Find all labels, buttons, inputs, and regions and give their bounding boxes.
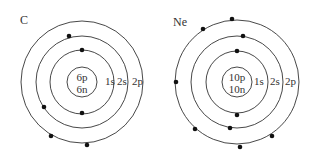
label-1s: 1s — [254, 75, 264, 87]
nucleus-protons: 6p — [77, 71, 89, 83]
electron — [193, 127, 198, 132]
electron — [85, 143, 90, 148]
electron — [235, 49, 240, 54]
label-1s: 1s — [105, 75, 115, 87]
electron — [80, 111, 85, 116]
electron — [238, 145, 243, 150]
neon-atom: Ne 10p 10n 1s 2s 2p — [173, 15, 299, 149]
electron — [67, 34, 72, 39]
label-2s: 2s — [117, 75, 127, 87]
atom-symbol: Ne — [173, 15, 187, 29]
electron — [228, 126, 233, 131]
electron — [270, 134, 275, 139]
electron — [80, 48, 85, 53]
label-2p: 2p — [132, 75, 144, 87]
electron — [174, 80, 179, 85]
nucleus-protons: 10p — [229, 71, 246, 83]
electron — [201, 27, 206, 32]
label-2p: 2p — [285, 75, 297, 87]
electron — [42, 105, 47, 110]
electron — [49, 134, 54, 139]
label-2s: 2s — [270, 75, 280, 87]
carbon-atom: C 6p 6n 1s 2s 2p — [20, 13, 144, 147]
electron — [241, 34, 246, 39]
nucleus-neutrons: 6n — [77, 83, 89, 95]
atom-symbol: C — [20, 13, 28, 27]
electron — [230, 17, 235, 22]
nucleus-neutrons: 10n — [229, 83, 246, 95]
electron — [235, 113, 240, 118]
bohr-diagrams: C 6p 6n 1s 2s 2p Ne 10p 10n 1s 2s 2p — [0, 0, 311, 158]
